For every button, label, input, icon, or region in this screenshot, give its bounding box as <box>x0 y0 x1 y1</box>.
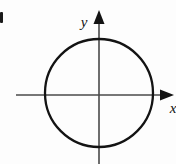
y-axis-label: y <box>79 14 88 30</box>
figure-background <box>0 0 176 164</box>
coordinate-plane-diagram: y x <box>0 0 176 164</box>
x-axis-label: x <box>169 100 176 116</box>
figure-container: y x <box>0 0 176 164</box>
cropped-label-fragment <box>0 12 3 23</box>
